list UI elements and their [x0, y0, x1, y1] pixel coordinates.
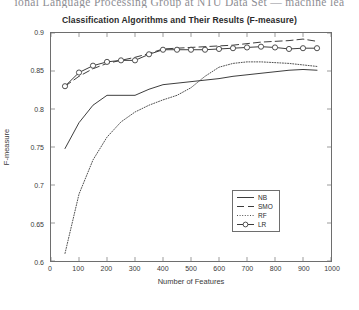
legend-label: NB: [258, 194, 267, 201]
series-marker-lr: [202, 47, 207, 52]
series-marker-lr: [62, 84, 67, 89]
series-marker-lr: [258, 44, 263, 49]
y-axis-label: F-measure: [2, 129, 11, 165]
series-marker-lr: [76, 70, 81, 75]
series-marker-lr: [104, 59, 109, 64]
x-tick-label: 800: [262, 265, 290, 272]
series-marker-lr: [90, 63, 95, 68]
legend-item-rf[interactable]: RF: [236, 211, 276, 220]
legend-label: SMO: [258, 203, 273, 210]
series-marker-lr: [132, 58, 137, 63]
y-tick-label: 0.7: [12, 182, 44, 189]
x-tick-label: 200: [92, 265, 120, 272]
x-tick-label: 100: [64, 265, 92, 272]
x-tick-label: 500: [177, 265, 205, 272]
x-tick-label: 0: [36, 265, 64, 272]
series-marker-lr: [216, 46, 221, 51]
legend-item-nb[interactable]: NB: [236, 193, 276, 202]
legend-swatch-lr: [236, 220, 255, 229]
legend-swatch-rf: [236, 211, 255, 220]
series-marker-lr: [300, 46, 305, 51]
chart-figure: Classification Algorithms and Their Resu…: [0, 12, 359, 310]
series-marker-lr: [174, 47, 179, 52]
y-tick-label: 0.8: [12, 105, 44, 112]
series-line-nb: [65, 69, 317, 148]
plot-area: [50, 32, 332, 262]
legend-swatch-smo: [236, 202, 255, 211]
legend-label: LR: [258, 221, 266, 228]
y-tick-label: 0.85: [12, 67, 44, 74]
legend-label: RF: [258, 212, 267, 219]
chart-title: Classification Algorithms and Their Resu…: [0, 15, 359, 25]
y-tick-label: 0.9: [12, 29, 44, 36]
series-marker-lr: [230, 46, 235, 51]
x-tick-label: 900: [290, 265, 318, 272]
cropped-page-header: ional Language Processing Group at NTU D…: [0, 0, 359, 8]
series-marker-lr: [188, 47, 193, 52]
x-axis-label: Number of Features: [50, 277, 332, 286]
x-tick-label: 400: [149, 265, 177, 272]
x-tick-label: 300: [121, 265, 149, 272]
series-marker-lr: [272, 45, 277, 50]
plot-lines: [51, 33, 331, 261]
series-marker-lr: [118, 58, 123, 63]
x-tick-label: 1000: [318, 265, 346, 272]
chart-legend: NBSMORFLR: [232, 190, 280, 232]
series-marker-lr: [314, 46, 319, 51]
y-tick-label: 0.65: [12, 220, 44, 227]
series-marker-lr: [146, 52, 151, 57]
x-tick-label: 700: [233, 265, 261, 272]
legend-item-smo[interactable]: SMO: [236, 202, 276, 211]
series-marker-lr: [160, 47, 165, 52]
legend-item-lr[interactable]: LR: [236, 220, 276, 229]
y-tick-label: 0.75: [12, 144, 44, 151]
series-marker-lr: [244, 45, 249, 50]
series-marker-lr: [286, 46, 291, 51]
x-tick-label: 600: [205, 265, 233, 272]
legend-swatch-nb: [236, 193, 255, 202]
